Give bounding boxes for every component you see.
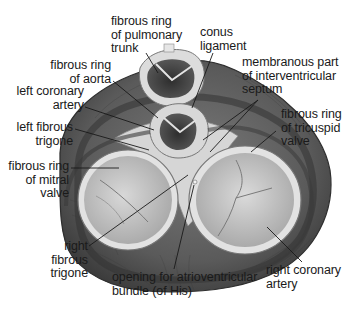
tricuspid-valve — [189, 146, 301, 254]
label-fibrous-ring-tricuspid: fibrous ring of tricuspid valve — [281, 108, 342, 149]
label-fibrous-ring-pulmonary-trunk: fibrous ring of pulmonary trunk — [111, 15, 182, 56]
aortic-valve-ring — [150, 104, 208, 158]
label-left-fibrous-trigone: left fibrous trigone — [17, 121, 73, 148]
mitral-valve — [78, 150, 178, 250]
label-fibrous-ring-mitral: fibrous ring of mitral valve — [8, 160, 69, 201]
label-conus-ligament: conus ligament — [200, 26, 246, 53]
label-fibrous-ring-aorta: fibrous ring of aorta — [50, 59, 111, 86]
av-bundle-opening — [193, 180, 197, 184]
label-right-coronary-artery: right coronary artery — [266, 264, 341, 291]
label-membranous-septum: membranous part of interventricular sept… — [242, 56, 338, 97]
label-left-coronary-artery: left coronary artery — [17, 85, 84, 112]
anatomy-diagram: fibrous ring of pulmonary trunk conus li… — [0, 0, 348, 309]
label-right-fibrous-trigone: right fibrous trigone — [50, 240, 88, 281]
label-av-bundle-opening: opening for atrioventricular bundle (of … — [112, 271, 257, 298]
